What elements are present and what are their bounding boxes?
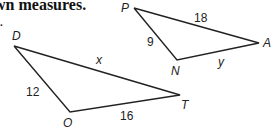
triangle-pna: P N A 9 18 y (121, 1, 271, 78)
vertex-label-d: D (12, 29, 21, 43)
side-label-pn: 9 (147, 35, 154, 49)
vertex-label-p: P (121, 1, 129, 15)
similar-triangles-figure: D O T 12 16 x P N A 9 18 y (0, 0, 276, 128)
vertex-label-o: O (63, 116, 72, 128)
vertex-label-t: T (181, 98, 190, 112)
side-label-na: y (217, 55, 225, 69)
side-label-ot: 16 (120, 109, 134, 123)
side-label-do: 12 (26, 85, 40, 99)
vertex-label-n: N (171, 64, 180, 78)
vertex-label-a: A (262, 36, 271, 50)
side-label-pa: 18 (194, 11, 208, 25)
side-label-dt: x (95, 53, 103, 67)
